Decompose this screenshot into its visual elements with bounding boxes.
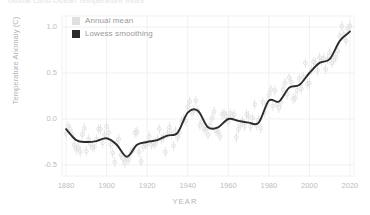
x-axis-title: YEAR (0, 197, 370, 206)
chart-figure: Global Land-Ocean Temperature Index Annu… (0, 0, 370, 215)
x-tick-label: 1920 (130, 181, 164, 190)
legend-swatch-annual-mean (72, 17, 80, 25)
legend-swatch-lowess (72, 30, 80, 38)
y-tick-label: 1.0 (31, 22, 57, 31)
legend-label-annual-mean: Annual mean (85, 16, 133, 25)
y-tick-label: 0.0 (31, 114, 57, 123)
y-tick-label: 0.5 (31, 68, 57, 77)
plot-background (62, 16, 354, 176)
y-axis-title: Temperature Anomaly (C) (11, 1, 20, 121)
x-tick-label: 1960 (211, 181, 245, 190)
legend-item-lowess[interactable]: Lowess smoothing (72, 27, 153, 40)
x-tick-label: 2020 (333, 181, 367, 190)
y-tick-label: -0.5 (31, 160, 57, 169)
x-tick-label: 1880 (49, 181, 83, 190)
x-tick-label: 1900 (90, 181, 124, 190)
x-tick-label: 2000 (292, 181, 326, 190)
x-tick-label: 1980 (252, 181, 286, 190)
chart-legend: Annual mean Lowess smoothing (72, 14, 153, 40)
x-tick-label: 1940 (171, 181, 205, 190)
legend-item-annual-mean[interactable]: Annual mean (72, 14, 153, 27)
legend-label-lowess: Lowess smoothing (85, 29, 153, 38)
